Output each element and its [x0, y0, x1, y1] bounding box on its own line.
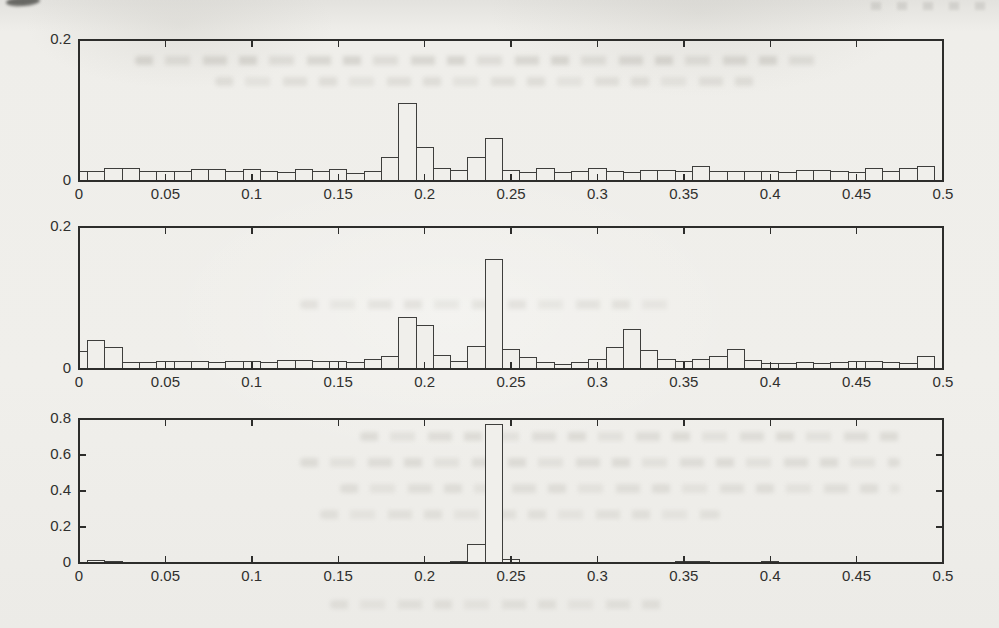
histogram-bar — [900, 363, 917, 369]
histogram-bar — [122, 363, 139, 369]
x-tick-label: 0.1 — [241, 185, 262, 202]
x-tick-label: 0.2 — [414, 567, 435, 584]
x-tick-label: 0.1 — [241, 373, 262, 390]
histogram-panel-2: 00.050.10.150.20.250.30.350.40.450.500.2 — [50, 217, 953, 390]
x-tick-label: 0.2 — [414, 185, 435, 202]
plot-box — [79, 227, 943, 369]
x-tick-label: 0 — [75, 185, 83, 202]
histogram-bar — [641, 351, 658, 370]
histogram-bar — [537, 363, 554, 369]
x-tick-label: 0.25 — [496, 373, 525, 390]
x-tick-label: 0.45 — [842, 185, 871, 202]
histogram-bar — [260, 172, 277, 181]
histogram-bar — [606, 172, 623, 181]
histogram-bar — [865, 361, 882, 369]
y-tick-label: 0 — [63, 359, 71, 376]
histogram-bar — [796, 363, 813, 369]
histogram-bar — [710, 171, 727, 181]
histogram-bar — [917, 167, 934, 181]
histogram-bar — [658, 360, 675, 369]
histogram-bar — [295, 361, 312, 370]
histogram-bar — [451, 170, 468, 181]
x-tick-label: 0.15 — [324, 373, 353, 390]
histogram-bar — [727, 349, 744, 369]
x-tick-label: 0.35 — [669, 185, 698, 202]
histogram-bar — [88, 341, 105, 369]
x-tick-label: 0.4 — [760, 567, 781, 584]
histogram-bar — [399, 104, 416, 182]
histogram-bar — [883, 172, 900, 181]
histogram-bar — [381, 158, 398, 181]
y-tick-label: 0.2 — [50, 517, 71, 534]
histogram-bar — [468, 544, 485, 563]
histogram-bar — [831, 172, 848, 181]
y-tick-label: 0.2 — [50, 30, 71, 47]
histogram-bar — [468, 346, 485, 369]
histogram-bar — [399, 317, 416, 369]
histogram-bar — [209, 170, 226, 181]
x-tick-label: 0.5 — [933, 373, 954, 390]
histogram-bar — [295, 170, 312, 181]
x-tick-label: 0.2 — [414, 373, 435, 390]
histogram-panel-1: 00.050.10.150.20.250.30.350.40.450.500.2 — [50, 30, 953, 202]
histogram-bar — [744, 361, 761, 370]
histogram-bar — [779, 363, 796, 369]
histogram-bar — [468, 157, 485, 181]
histogram-bar — [744, 171, 761, 181]
histogram-bar — [658, 170, 675, 181]
histogram-bar — [364, 172, 381, 181]
histogram-bar — [692, 359, 709, 369]
histogram-bar — [606, 348, 623, 369]
plot-box — [79, 40, 943, 181]
histogram-bar — [451, 362, 468, 369]
x-tick-label: 0.4 — [760, 185, 781, 202]
x-tick-label: 0.15 — [324, 567, 353, 584]
histogram-bar — [641, 170, 658, 181]
histogram-bar — [779, 173, 796, 182]
histogram-bar — [727, 172, 744, 181]
x-tick-label: 0.3 — [587, 567, 608, 584]
histogram-bar — [174, 172, 191, 181]
histogram-bar — [312, 171, 329, 181]
histogram-bar — [572, 363, 589, 369]
histogram-bar — [260, 363, 277, 369]
x-tick-label: 0.05 — [151, 567, 180, 584]
x-tick-label: 0.3 — [587, 185, 608, 202]
histogram-bar — [623, 330, 640, 369]
histogram-bar — [278, 361, 295, 370]
x-tick-label: 0.25 — [496, 567, 525, 584]
histogram-bar — [883, 363, 900, 369]
histogram-bar — [140, 172, 157, 181]
histogram-bar — [209, 363, 226, 369]
histogram-bar — [381, 356, 398, 369]
x-tick-label: 0.05 — [151, 185, 180, 202]
x-tick-label: 0.4 — [760, 373, 781, 390]
histograms-figure: 00.050.10.150.20.250.30.350.40.450.500.2… — [0, 0, 999, 628]
histogram-bar — [796, 170, 813, 181]
histogram-bar — [520, 173, 537, 182]
x-tick-label: 0.5 — [933, 185, 954, 202]
histogram-bar — [917, 356, 934, 369]
x-tick-label: 0.5 — [933, 567, 954, 584]
histogram-bar — [692, 167, 709, 181]
x-tick-label: 0.45 — [842, 567, 871, 584]
x-tick-label: 0.45 — [842, 373, 871, 390]
histogram-panel-3: 00.050.10.150.20.250.30.350.40.450.500.2… — [50, 409, 953, 584]
histogram-bar — [485, 259, 502, 369]
x-tick-label: 0.35 — [669, 373, 698, 390]
x-tick-label: 0.25 — [496, 185, 525, 202]
x-tick-label: 0.3 — [587, 373, 608, 390]
histogram-bar — [79, 172, 88, 181]
histogram-bar — [140, 363, 157, 369]
y-tick-label: 0.2 — [50, 217, 71, 234]
histogram-bar — [433, 168, 450, 181]
histogram-bar — [226, 361, 243, 369]
y-tick-label: 0 — [63, 553, 71, 570]
histogram-bar — [312, 362, 329, 369]
x-tick-label: 0.05 — [151, 373, 180, 390]
histogram-bar — [88, 172, 105, 181]
histogram-bar — [174, 362, 191, 369]
x-tick-label: 0 — [75, 373, 83, 390]
histogram-bar — [813, 170, 830, 181]
histogram-bar — [485, 139, 502, 181]
